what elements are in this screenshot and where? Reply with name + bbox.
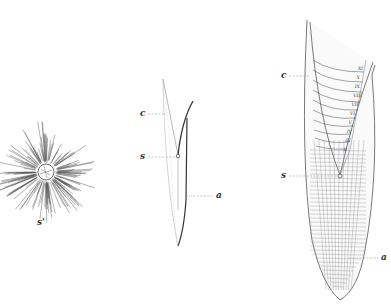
label-s-prime: s' xyxy=(37,218,45,227)
label-s-middle: s xyxy=(140,152,145,161)
label-s-right: s xyxy=(281,171,286,180)
svg-text:XI: XI xyxy=(357,66,363,71)
svg-text:VI: VI xyxy=(350,111,355,116)
svg-text:III: III xyxy=(344,138,351,143)
svg-text:IX: IX xyxy=(354,84,361,89)
botanical-figure: XIXIXVIIIVIIVIVIVIIIII xyxy=(0,0,391,307)
label-a-right: a xyxy=(381,253,387,262)
root-section-right: XIXIXVIIIVIIVIVIVIIIII xyxy=(289,20,378,300)
svg-text:VII: VII xyxy=(352,102,359,107)
svg-text:VIII: VIII xyxy=(353,93,362,98)
label-a-middle: a xyxy=(216,191,222,200)
radiating-cell-mass xyxy=(0,121,95,222)
svg-text:II: II xyxy=(343,147,348,152)
svg-text:IV: IV xyxy=(346,129,353,134)
root-outline-middle xyxy=(148,79,213,246)
label-c-middle: c xyxy=(140,109,145,118)
label-c-right: c xyxy=(281,71,286,80)
